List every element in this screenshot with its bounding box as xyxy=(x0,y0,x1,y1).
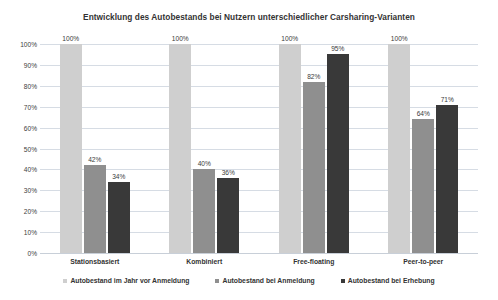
bar[interactable]: 100% xyxy=(279,44,301,253)
bar-group: 100%40%36% xyxy=(169,44,239,253)
legend-swatch-icon xyxy=(63,279,67,283)
bar-group: 100%82%95% xyxy=(279,44,349,253)
bar[interactable]: 71% xyxy=(436,105,458,253)
bar-value-label: 34% xyxy=(112,173,125,180)
y-axis-tick-label: 60% xyxy=(3,124,37,131)
bar[interactable]: 40% xyxy=(193,169,215,253)
x-axis-category-label: Peer-to-peer xyxy=(403,258,443,265)
y-axis: 100%90%80%70%60%50%40%30%20%10%0% xyxy=(0,44,37,253)
x-axis-category-label: Kombiniert xyxy=(186,258,222,265)
bar[interactable]: 42% xyxy=(84,165,106,253)
legend-label: Autobestand bei Erhebung xyxy=(348,277,435,284)
chart-title: Entwicklung des Autobestands bei Nutzern… xyxy=(0,12,498,22)
bar-chart: Entwicklung des Autobestands bei Nutzern… xyxy=(0,0,498,300)
bar[interactable]: 82% xyxy=(303,82,325,253)
legend-swatch-icon xyxy=(215,279,219,283)
bar-value-label: 95% xyxy=(331,45,344,52)
legend-item[interactable]: Autobestand im Jahr vor Anmeldung xyxy=(63,277,189,284)
plot-area: 100%42%34%100%40%36%100%82%95%100%64%71% xyxy=(40,44,478,253)
bar-group: 100%42%34% xyxy=(60,44,130,253)
bar-value-label: 71% xyxy=(441,96,454,103)
bar[interactable]: 100% xyxy=(388,44,410,253)
y-axis-tick-label: 100% xyxy=(3,41,37,48)
legend-item[interactable]: Autobestand bei Anmeldung xyxy=(215,277,314,284)
gridline xyxy=(40,253,478,254)
bar-value-label: 40% xyxy=(198,160,211,167)
bar[interactable]: 95% xyxy=(327,54,349,253)
bar[interactable]: 100% xyxy=(60,44,82,253)
bar-value-label: 100% xyxy=(62,35,79,42)
legend-label: Autobestand im Jahr vor Anmeldung xyxy=(70,277,189,284)
bar[interactable]: 34% xyxy=(108,182,130,253)
legend-item[interactable]: Autobestand bei Erhebung xyxy=(341,277,435,284)
y-axis-tick-label: 70% xyxy=(3,103,37,110)
legend-swatch-icon xyxy=(341,279,345,283)
bar-value-label: 100% xyxy=(281,35,298,42)
y-axis-tick-label: 20% xyxy=(3,208,37,215)
chart-legend: Autobestand im Jahr vor AnmeldungAutobes… xyxy=(0,277,498,284)
y-axis-tick-label: 50% xyxy=(3,145,37,152)
bar-value-label: 42% xyxy=(88,156,101,163)
bar-value-label: 100% xyxy=(172,35,189,42)
y-axis-tick-label: 40% xyxy=(3,166,37,173)
x-axis-category-label: Free-floating xyxy=(293,258,334,265)
bar-value-label: 100% xyxy=(391,35,408,42)
bar[interactable]: 64% xyxy=(412,119,434,253)
x-axis-category-label: Stationsbasiert xyxy=(70,258,119,265)
y-axis-tick-label: 10% xyxy=(3,229,37,236)
bar-value-label: 36% xyxy=(222,169,235,176)
bar[interactable]: 100% xyxy=(169,44,191,253)
bar-value-label: 82% xyxy=(307,73,320,80)
y-axis-tick-label: 30% xyxy=(3,187,37,194)
y-axis-tick-label: 0% xyxy=(3,250,37,257)
legend-label: Autobestand bei Anmeldung xyxy=(222,277,314,284)
y-axis-tick-label: 80% xyxy=(3,82,37,89)
bar-value-label: 64% xyxy=(417,110,430,117)
bar-group: 100%64%71% xyxy=(388,44,458,253)
y-axis-tick-label: 90% xyxy=(3,61,37,68)
bar[interactable]: 36% xyxy=(217,178,239,253)
